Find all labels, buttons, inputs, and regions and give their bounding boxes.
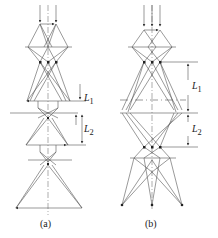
ray-diagrams	[0, 0, 218, 238]
caption-a: (a)	[40, 218, 51, 229]
optics-diagram: L1 L2 L1 L2 (a) (b)	[0, 0, 218, 238]
caption-b: (b)	[145, 218, 157, 229]
diagram-b	[120, 5, 198, 210]
label-L1-a: L1	[84, 92, 94, 106]
label-L2-b: L2	[192, 123, 202, 137]
diagram-a	[10, 5, 86, 215]
label-L1-b: L1	[192, 80, 202, 94]
label-L2-a: L2	[84, 123, 94, 137]
